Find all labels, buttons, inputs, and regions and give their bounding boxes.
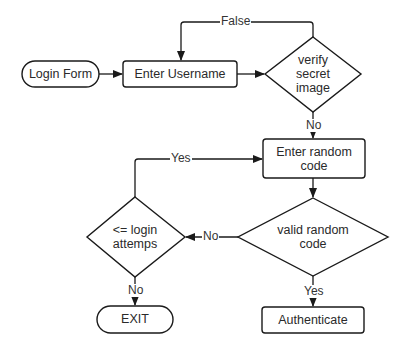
- edge-label-false: False: [220, 15, 251, 28]
- enter-username-node: Enter Username: [123, 61, 237, 87]
- login-attempts-line-2: attemps: [113, 237, 157, 251]
- exit-node: EXIT: [97, 306, 173, 333]
- verify-label-line-2: secret: [296, 67, 330, 81]
- edge-label-verify-no: No: [305, 119, 322, 132]
- enter-random-code-line-1: Enter random: [276, 145, 352, 159]
- edge-label-attempts-no: No: [127, 284, 144, 297]
- login-attempts-node: <= login attemps: [100, 220, 170, 254]
- exit-label: EXIT: [121, 312, 149, 327]
- verify-secret-image-node: verify secret image: [275, 50, 351, 98]
- verify-label-line-3: image: [296, 81, 330, 95]
- authenticate-label: Authenticate: [278, 313, 348, 328]
- enter-random-code-node: Enter random code: [263, 139, 365, 178]
- login-attempts-line-1: <= login: [113, 223, 157, 237]
- valid-random-code-line-1: valid random: [277, 223, 349, 237]
- edge-attempts-yes: [135, 159, 262, 197]
- enter-username-label: Enter Username: [134, 67, 225, 82]
- edge-label-valid-no: No: [202, 230, 219, 243]
- edge-label-attempts-yes: Yes: [170, 152, 192, 165]
- login-form-label: Login Form: [29, 67, 92, 82]
- valid-random-code-node: valid random code: [263, 220, 363, 254]
- verify-label-line-1: verify: [298, 53, 328, 67]
- valid-random-code-line-2: code: [299, 237, 326, 251]
- enter-random-code-line-2: code: [300, 159, 327, 173]
- edge-label-valid-yes: Yes: [303, 285, 325, 298]
- login-form-node: Login Form: [22, 61, 99, 87]
- authenticate-node: Authenticate: [262, 307, 364, 333]
